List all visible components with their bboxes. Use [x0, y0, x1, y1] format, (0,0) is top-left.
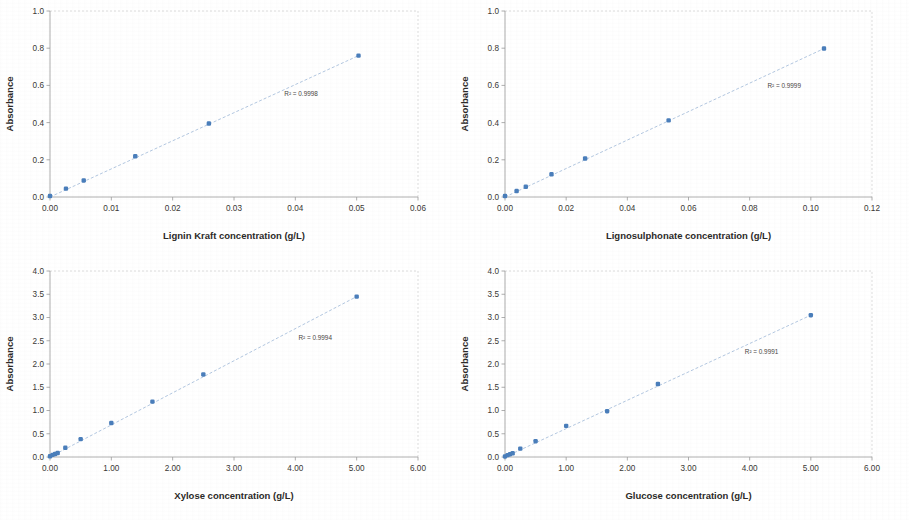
- x-tick-label: 0.00: [497, 464, 513, 473]
- y-tick-label: 0.4: [33, 119, 45, 128]
- chart-svg-glucose: 0.00.51.01.52.02.53.03.54.00.001.002.003…: [455, 260, 909, 520]
- x-tick-label: 0.04: [619, 204, 635, 213]
- data-point-marker: [78, 437, 82, 441]
- x-tick-label: 1.00: [103, 464, 119, 473]
- data-point-marker: [510, 451, 514, 455]
- r2-annotation: R² = 0.9991: [745, 348, 779, 355]
- data-point-marker: [564, 424, 568, 428]
- data-point-marker: [605, 409, 609, 413]
- x-tick-label: 0.12: [864, 204, 880, 213]
- y-tick-label: 0.2: [33, 156, 45, 165]
- x-tick-label: 0.05: [349, 204, 365, 213]
- data-point-marker: [356, 53, 360, 57]
- x-axis-title: Xylose concentration (g/L): [174, 490, 293, 501]
- x-tick-label: 6.00: [410, 464, 426, 473]
- trendline: [50, 297, 357, 457]
- y-axis-title: Absorbance: [459, 337, 470, 392]
- y-tick-label: 3.5: [488, 290, 500, 299]
- chart-svg-lignin-kraft: 0.00.20.40.60.81.00.000.010.020.030.040.…: [0, 0, 455, 260]
- y-tick-label: 0.4: [488, 119, 500, 128]
- y-tick-label: 1.5: [33, 383, 45, 392]
- data-point-marker: [809, 313, 813, 317]
- x-tick-label: 4.00: [287, 464, 303, 473]
- y-tick-label: 3.5: [33, 290, 45, 299]
- x-tick-label: 0.08: [742, 204, 758, 213]
- data-point-marker: [518, 446, 522, 450]
- x-tick-label: 0.06: [681, 204, 697, 213]
- x-tick-label: 3.00: [681, 464, 697, 473]
- y-tick-label: 0.6: [33, 81, 45, 90]
- chart-svg-xylose: 0.00.51.01.52.02.53.03.54.00.001.002.003…: [0, 260, 455, 520]
- y-tick-label: 3.0: [488, 313, 500, 322]
- calibration-figure-grid: 0.00.20.40.60.81.00.000.010.020.030.040.…: [0, 0, 909, 520]
- y-tick-label: 1.0: [488, 7, 500, 16]
- data-point-marker: [822, 46, 826, 50]
- x-tick-label: 5.00: [803, 464, 819, 473]
- x-tick-label: 0.00: [497, 204, 513, 213]
- x-tick-label: 0.06: [410, 204, 426, 213]
- chart-panel-glucose: 0.00.51.01.52.02.53.03.54.00.001.002.003…: [455, 260, 909, 520]
- data-point-marker: [55, 451, 59, 455]
- x-tick-label: 6.00: [864, 464, 880, 473]
- y-tick-label: 1.0: [33, 406, 45, 415]
- x-tick-label: 1.00: [558, 464, 574, 473]
- plot-area-border: [505, 11, 872, 197]
- y-tick-label: 0.5: [33, 430, 45, 439]
- data-point-marker: [63, 446, 67, 450]
- x-axis-title: Lignin Kraft concentration (g/L): [163, 230, 305, 241]
- y-tick-label: 2.5: [488, 337, 500, 346]
- x-tick-label: 5.00: [349, 464, 365, 473]
- plot-area-border: [505, 271, 872, 457]
- x-axis-title: Glucose concentration (g/L): [625, 490, 751, 501]
- r2-annotation: R² = 0.9999: [767, 82, 801, 89]
- x-axis-title: Lignosulphonate concentration (g/L): [606, 230, 771, 241]
- data-point-marker: [109, 421, 113, 425]
- data-point-marker: [656, 382, 660, 386]
- data-point-marker: [514, 189, 518, 193]
- x-tick-label: 4.00: [742, 464, 758, 473]
- data-point-marker: [64, 186, 68, 190]
- x-tick-label: 0.01: [103, 204, 119, 213]
- y-tick-label: 0.5: [488, 430, 500, 439]
- x-tick-label: 3.00: [226, 464, 242, 473]
- chart-panel-lignin-kraft: 0.00.20.40.60.81.00.000.010.020.030.040.…: [0, 0, 455, 260]
- y-tick-label: 0.6: [488, 81, 500, 90]
- y-tick-label: 0.0: [33, 453, 45, 462]
- data-point-marker: [150, 399, 154, 403]
- y-tick-label: 4.0: [33, 267, 45, 276]
- r2-annotation: R² = 0.9998: [284, 90, 318, 97]
- x-tick-label: 0.02: [558, 204, 574, 213]
- y-axis-title: Absorbance: [4, 77, 15, 132]
- y-axis-title: Absorbance: [4, 337, 15, 392]
- y-tick-label: 0.0: [488, 453, 500, 462]
- y-tick-label: 0.8: [33, 44, 45, 53]
- data-point-marker: [207, 121, 211, 125]
- data-point-marker: [82, 178, 86, 182]
- data-point-marker: [549, 172, 553, 176]
- y-axis-title: Absorbance: [459, 77, 470, 132]
- y-tick-label: 2.5: [33, 337, 45, 346]
- data-point-marker: [583, 156, 587, 160]
- trendline: [50, 56, 359, 197]
- data-point-marker: [533, 439, 537, 443]
- r2-annotation: R² = 0.9994: [298, 334, 332, 341]
- plot-area-border: [50, 11, 418, 197]
- data-point-marker: [133, 154, 137, 158]
- chart-panel-lignosulphonate: 0.00.20.40.60.81.00.000.020.040.060.080.…: [455, 0, 909, 260]
- chart-svg-lignosulphonate: 0.00.20.40.60.81.00.000.020.040.060.080.…: [455, 0, 909, 260]
- y-tick-label: 2.0: [488, 360, 500, 369]
- y-tick-label: 0.2: [488, 156, 500, 165]
- y-tick-label: 1.5: [488, 383, 500, 392]
- plot-area-border: [50, 271, 418, 457]
- x-tick-label: 2.00: [165, 464, 181, 473]
- data-point-marker: [201, 372, 205, 376]
- data-point-marker: [503, 194, 507, 198]
- x-tick-label: 0.03: [226, 204, 242, 213]
- data-point-marker: [354, 294, 358, 298]
- y-tick-label: 2.0: [33, 360, 45, 369]
- data-point-marker: [666, 118, 670, 122]
- x-tick-label: 0.00: [42, 204, 58, 213]
- y-tick-label: 0.0: [488, 193, 500, 202]
- y-tick-label: 0.0: [33, 193, 45, 202]
- y-tick-label: 4.0: [488, 267, 500, 276]
